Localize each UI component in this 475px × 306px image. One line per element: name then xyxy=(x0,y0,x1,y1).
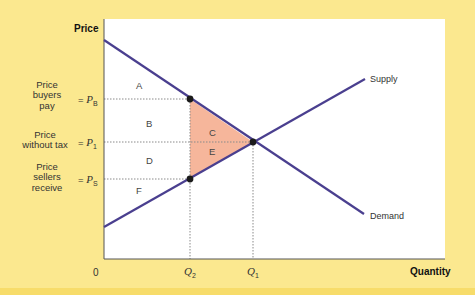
supply-demand-chart xyxy=(0,0,475,306)
area-f-label: F xyxy=(136,185,142,196)
tick-q1: Q1 xyxy=(247,265,259,279)
x-axis-label: Quantity xyxy=(410,266,451,277)
demand-label: Demand xyxy=(370,211,404,221)
symbol-pb: = PB xyxy=(78,93,98,107)
point-buyers-price xyxy=(187,96,194,103)
tick-q2: Q2 xyxy=(184,265,196,279)
area-c-label: C xyxy=(209,127,216,138)
supply-curve xyxy=(104,79,365,227)
point-sellers-price xyxy=(187,176,194,183)
label-price-buyers-pay: Price buyers pay xyxy=(22,80,72,111)
deadweight-loss-triangle xyxy=(190,99,253,179)
supply-label: Supply xyxy=(370,74,398,84)
y-axis-label: Price xyxy=(74,23,98,34)
symbol-ps: = PS xyxy=(78,173,98,187)
label-price-sellers-receive: Price sellers receive xyxy=(22,162,72,193)
point-equilibrium xyxy=(250,139,257,146)
area-e-label: E xyxy=(209,146,215,157)
symbol-p1: = P1 xyxy=(78,136,97,150)
area-a-label: A xyxy=(136,80,142,91)
demand-curve xyxy=(104,40,364,214)
area-b-label: B xyxy=(146,118,152,129)
origin-label: 0 xyxy=(93,267,99,278)
label-price-without-tax: Price without tax xyxy=(14,130,76,151)
area-d-label: D xyxy=(146,155,153,166)
